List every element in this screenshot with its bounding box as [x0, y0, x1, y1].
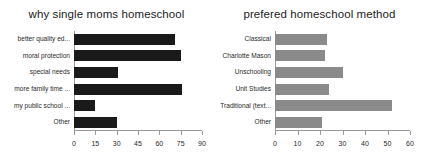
bar-row: Other: [275, 114, 410, 131]
chart-title-left: why single moms homeschool: [0, 8, 213, 20]
x-axis-tick-label: 60: [155, 140, 163, 147]
x-axis-tick-label: 20: [316, 140, 324, 147]
bar-category-label: Traditional (text...: [220, 103, 275, 110]
x-axis-tick: [95, 131, 96, 135]
x-axis-tick-label: 30: [113, 140, 121, 147]
x-axis-tick: [202, 131, 203, 135]
bar-row: special needs: [74, 64, 202, 81]
bar: [275, 100, 392, 111]
bar: [275, 50, 325, 61]
chart-panel-why-single-moms-homeschool: why single moms homeschool better qualit…: [0, 0, 213, 162]
x-axis-tick-label: 45: [134, 140, 142, 147]
bar: [74, 100, 95, 111]
x-axis-tick-label: 50: [384, 140, 392, 147]
x-axis-tick-label: 40: [361, 140, 369, 147]
bar: [74, 34, 175, 45]
bar-row: more family time ...: [74, 81, 202, 98]
x-axis-tick: [410, 131, 411, 135]
x-axis-tick: [181, 131, 182, 135]
bar-category-label: my public school ...: [14, 103, 74, 110]
bar-category-label: better quality ed...: [18, 36, 74, 43]
bar: [275, 117, 322, 128]
bar-category-label: Unit Studies: [235, 86, 275, 93]
x-axis-tick: [343, 131, 344, 135]
x-axis-tick-label: 10: [294, 140, 302, 147]
plot-area-right: ClassicalCharlotte MasonUnschoolingUnit …: [275, 31, 410, 131]
bar-category-label: more family time ...: [14, 86, 74, 93]
bar-category-label: Unschooling: [235, 69, 275, 76]
bar-category-label: special needs: [30, 69, 74, 76]
x-axis-tick: [138, 131, 139, 135]
x-axis-tick: [320, 131, 321, 135]
bar: [275, 34, 327, 45]
bar-category-label: Other: [54, 119, 75, 126]
bar-row: moral protection: [74, 48, 202, 65]
bar-series-left: better quality ed...moral protectionspec…: [74, 31, 202, 131]
bar-row: Charlotte Mason: [275, 48, 410, 65]
x-axis-tick: [275, 131, 276, 135]
bar: [74, 50, 181, 61]
x-axis-tick: [159, 131, 160, 135]
bar-row: Classical: [275, 31, 410, 48]
x-axis-tick: [365, 131, 366, 135]
x-axis-tick-label: 75: [177, 140, 185, 147]
bar: [275, 67, 343, 78]
bar-category-label: moral protection: [23, 53, 74, 60]
x-axis-tick-label: 0: [273, 140, 277, 147]
bar-row: Traditional (text...: [275, 98, 410, 115]
bar-row: Unschooling: [275, 64, 410, 81]
bar-row: my public school ...: [74, 98, 202, 115]
x-axis-tick-label: 60: [406, 140, 414, 147]
bar: [74, 84, 182, 95]
bar: [74, 67, 118, 78]
bar-row: Other: [74, 114, 202, 131]
x-axis-tick: [117, 131, 118, 135]
x-axis-tick-label: 90: [198, 140, 206, 147]
bar: [275, 84, 329, 95]
bar-category-label: Other: [255, 119, 276, 126]
bar-category-label: Classical: [245, 36, 275, 43]
x-axis-tick: [388, 131, 389, 135]
x-axis-tick: [74, 131, 75, 135]
bar: [74, 117, 117, 128]
bar-row: better quality ed...: [74, 31, 202, 48]
plot-area-left: better quality ed...moral protectionspec…: [74, 31, 202, 131]
chart-panel-prefered-homeschool-method: prefered homeschool method ClassicalChar…: [213, 0, 426, 162]
bar-row: Unit Studies: [275, 81, 410, 98]
bar-category-label: Charlotte Mason: [223, 53, 275, 60]
x-axis-tick-label: 0: [72, 140, 76, 147]
bar-series-right: ClassicalCharlotte MasonUnschoolingUnit …: [275, 31, 410, 131]
chart-title-right: prefered homeschool method: [213, 8, 426, 20]
x-axis-tick: [298, 131, 299, 135]
figure-canvas: why single moms homeschool better qualit…: [0, 0, 426, 162]
x-axis-tick-label: 15: [91, 140, 99, 147]
x-axis-tick-label: 30: [339, 140, 347, 147]
